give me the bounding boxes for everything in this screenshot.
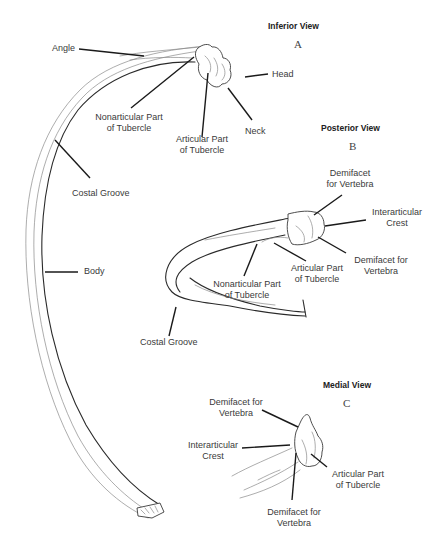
inferior-view-title: Inferior View xyxy=(268,21,319,31)
rib-anatomy-diagram: Inferior View A Angle Head Nonarticular … xyxy=(0,0,441,542)
label-interarticular-crest-c: Interarticular Crest xyxy=(184,440,242,462)
medial-view-title: Medial View xyxy=(323,380,371,390)
label-articular-part-of-tubercle-b: Articular Part of Tubercle xyxy=(285,263,349,285)
label-costal-groove-b: Costal Groove xyxy=(140,337,198,348)
view-letter-c: C xyxy=(343,397,350,409)
label-demifacet-for-vertebra-b-top: Demifacet for Vertebra xyxy=(322,168,378,190)
label-demifacet-for-vertebra-c-top: Demifacet for Vertebra xyxy=(204,397,268,419)
posterior-view-title: Posterior View xyxy=(321,123,380,133)
label-articular-part-of-tubercle-a: Articular Part of Tubercle xyxy=(170,134,234,156)
label-demifacet-for-vertebra-b-bottom: Demifacet for Vertebra xyxy=(349,255,413,277)
label-articular-part-of-tubercle-c: Articular Part of Tubercle xyxy=(326,469,390,491)
label-nonarticular-part-of-tubercle-b: Nonarticular Part of Tubercle xyxy=(208,279,286,301)
label-body: Body xyxy=(84,266,105,277)
label-costal-groove-a: Costal Groove xyxy=(72,188,130,199)
view-letter-b: B xyxy=(349,140,356,152)
label-nonarticular-part-of-tubercle-a: Nonarticular Part of Tubercle xyxy=(90,112,168,134)
label-head: Head xyxy=(272,69,294,80)
label-demifacet-for-vertebra-c-bottom: Demifacet for Vertebra xyxy=(262,507,326,529)
label-neck: Neck xyxy=(245,126,266,137)
label-interarticular-crest-b: Interarticular Crest xyxy=(367,207,427,229)
rib-medial-view-drawing xyxy=(232,415,323,498)
label-angle: Angle xyxy=(52,43,75,54)
view-letter-a: A xyxy=(294,38,302,50)
